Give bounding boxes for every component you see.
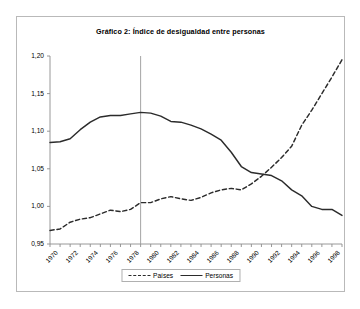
legend-label-personas: Personas (205, 272, 233, 279)
y-axis-tick-label: 1,15 (20, 90, 44, 97)
chart-legend: Países Personas (121, 269, 240, 282)
legend-entry-paises[interactable]: Países (128, 272, 173, 279)
solid-line-swatch-icon (180, 275, 202, 276)
y-axis-tick-label: 1,10 (20, 127, 44, 134)
y-axis-tick-label: 1,20 (20, 52, 44, 59)
y-axis-tick-label: 0,95 (20, 240, 44, 247)
plot-area: 0,951,001,051,101,151,201970197219741976… (17, 17, 344, 291)
legend-entry-personas[interactable]: Personas (180, 272, 233, 279)
dashed-line-swatch-icon (128, 275, 150, 276)
y-axis-tick-label: 1,00 (20, 202, 44, 209)
y-axis-tick-label: 1,05 (20, 165, 44, 172)
chart-figure: Gráfico 2: Índice de desigualdad entre p… (16, 16, 345, 292)
legend-label-paises: Países (153, 272, 173, 279)
series-line-pases (50, 60, 342, 231)
series-line-personas (50, 112, 342, 215)
